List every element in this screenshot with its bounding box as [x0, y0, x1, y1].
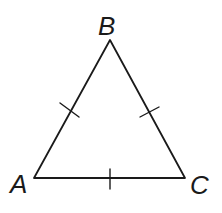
- tick-mark-bc: [140, 107, 159, 117]
- vertex-label-c: C: [190, 170, 209, 200]
- triangle-diagram: B A C: [0, 0, 222, 213]
- vertex-label-a: A: [8, 169, 27, 199]
- vertex-label-b: B: [98, 11, 115, 41]
- triangle-abc: [34, 40, 185, 178]
